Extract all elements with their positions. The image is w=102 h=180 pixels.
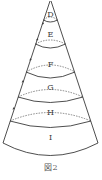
arrow-icon [42, 22, 44, 25]
band-front-solid [18, 97, 83, 103]
cone-figure: D E F G H I 図2 [0, 0, 102, 180]
section-label-g: G [47, 83, 53, 92]
section-label-d: D [47, 10, 53, 19]
cone-diagram: D E F G H I [0, 0, 102, 162]
band-front-solid [36, 44, 66, 48]
band-front-solid [10, 121, 91, 128]
section-label-i: I [49, 133, 52, 142]
section-label-f: F [48, 60, 54, 69]
figure-caption: 図2 [0, 161, 102, 172]
section-label-e: E [48, 30, 54, 39]
section-label-h: H [47, 108, 54, 117]
band-front-solid [26, 72, 75, 78]
base-front-solid [3, 143, 98, 156]
band-back-dashed [36, 40, 66, 44]
band-front-solid [44, 20, 58, 22]
